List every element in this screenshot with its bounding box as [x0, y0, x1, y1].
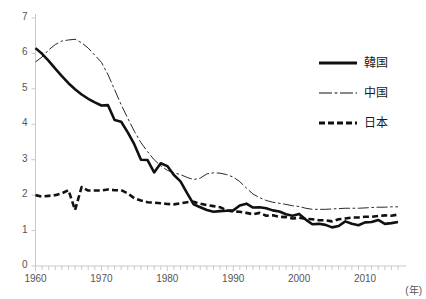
x-tick-label: 1990 — [213, 273, 253, 284]
x-tick-label: 1980 — [147, 273, 187, 284]
legend-label-china: 中国 — [364, 87, 388, 99]
legend-sample-solid-icon — [318, 57, 358, 69]
plot-area — [0, 0, 426, 299]
legend-item-china: 中国 — [318, 78, 418, 108]
legend-label-japan: 日本 — [364, 117, 388, 129]
y-tick-label: 6 — [6, 46, 28, 57]
legend-sample-dashdot-icon — [318, 87, 358, 99]
chart-legend: 韓国 中国 日本 — [318, 48, 418, 138]
x-tick-label: 1970 — [81, 273, 121, 284]
y-tick-label: 5 — [6, 82, 28, 93]
x-tick-label: 1960 — [16, 273, 56, 284]
legend-item-japan: 日本 — [318, 108, 418, 138]
legend-item-korea: 韓国 — [318, 48, 418, 78]
legend-sample-dashed-icon — [318, 117, 358, 129]
x-tick-label: 2000 — [279, 273, 319, 284]
y-tick-label: 2 — [6, 188, 28, 199]
x-tick-label: 2010 — [345, 273, 385, 284]
y-tick-label: 3 — [6, 153, 28, 164]
fertility-rate-line-chart: 01234567 196019701980199020002010 (年) 韓国… — [0, 0, 426, 299]
legend-label-korea: 韓国 — [364, 57, 388, 69]
series-line — [36, 187, 399, 221]
y-tick-label: 4 — [6, 117, 28, 128]
y-tick-label: 7 — [6, 11, 28, 22]
x-axis-unit-label: (年) — [405, 282, 422, 297]
y-tick-label: 0 — [6, 259, 28, 270]
y-tick-label: 1 — [6, 224, 28, 235]
